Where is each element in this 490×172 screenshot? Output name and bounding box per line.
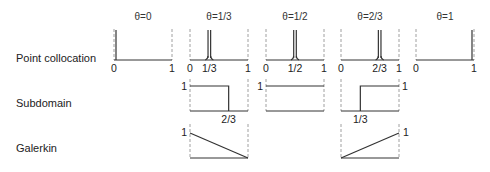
dirac-spike-foot [381, 56, 384, 60]
tick-label-subdomain-edge: 2/3 [221, 113, 236, 125]
dirac-spike-foot [376, 56, 379, 60]
height-label: 1 [402, 80, 408, 92]
row-label-point-collocation: Point collocation [16, 52, 96, 64]
tick-label-collocation-point: 2/3 [372, 62, 387, 74]
subdomain-weight-function [360, 86, 399, 111]
tick-label-collocation-point: 1/2 [288, 62, 303, 74]
tick-label-0: 0 [263, 62, 269, 74]
galerkin-linear-weight-function [341, 133, 399, 158]
weighting-functions-diagram: Point collocation Subdomain Galerkin θ=0… [0, 0, 490, 172]
height-label: 1 [181, 126, 187, 138]
tick-label-1: 1 [321, 62, 327, 74]
tick-label-0: 0 [413, 62, 419, 74]
dirac-spike-foot [291, 56, 294, 60]
dirac-spike-foot [296, 56, 299, 60]
height-label: 1 [257, 80, 263, 92]
height-label: 1 [181, 80, 187, 92]
theta-label: θ=0 [135, 11, 152, 22]
subdomain-weight-function [190, 86, 229, 111]
tick-label-0: 0 [187, 62, 193, 74]
dirac-spike-foot [205, 56, 208, 60]
theta-label: θ=1/2 [282, 11, 308, 22]
tick-label-0: 0 [338, 62, 344, 74]
row-label-subdomain: Subdomain [16, 97, 72, 109]
tick-label-0: 0 [111, 62, 117, 74]
theta-label: θ=1/3 [206, 11, 232, 22]
row-label-galerkin: Galerkin [16, 142, 57, 154]
theta-label: θ=1 [437, 11, 454, 22]
tick-label-1: 1 [245, 62, 251, 74]
height-label: 1 [403, 126, 409, 138]
tick-label-collocation-point: 1/3 [202, 62, 217, 74]
theta-label: θ=2/3 [357, 11, 383, 22]
tick-label-subdomain-edge: 1/3 [353, 113, 368, 125]
tick-label-1: 1 [471, 62, 477, 74]
dirac-spike-foot [211, 56, 214, 60]
tick-label-1: 1 [169, 62, 175, 74]
tick-label-1: 1 [396, 62, 402, 74]
galerkin-linear-weight-function [190, 133, 248, 158]
